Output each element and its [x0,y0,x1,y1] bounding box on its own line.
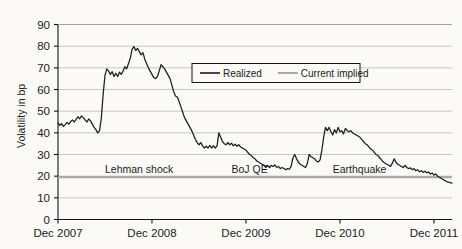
x-tick-label-1: Dec 2008 [127,227,176,239]
y-tick-label-10: 10 [37,192,50,204]
annotation-1: BoJ QE [232,163,268,175]
y-axis-title: Volatility in bp [15,84,27,148]
y-tick-label-90: 90 [37,19,50,31]
y-tick-label-40: 40 [37,127,50,139]
volatility-chart: 0102030405060708090 Dec 2007Dec 2008Dec … [0,0,462,249]
y-axis-title-text: Volatility in bp [15,84,27,148]
y-tick-label-70: 70 [37,62,50,74]
y-tick-label-50: 50 [37,105,50,117]
chart-svg: 0102030405060708090 Dec 2007Dec 2008Dec … [0,0,462,249]
y-tick-label-30: 30 [37,149,50,161]
chart-legend[interactable]: RealizedCurrent implied [192,64,369,83]
legend-label-1[interactable]: Current implied [301,68,369,79]
x-tick-label-2: Dec 2009 [221,227,270,239]
y-tick-label-80: 80 [37,40,50,52]
x-tick-label-4: Dec 2011 [410,227,458,239]
annotation-0: Lehman shock [105,163,174,175]
annotation-2: Earthquake [333,163,387,175]
x-tick-label-3: Dec 2010 [315,227,364,239]
chart-annotations: Lehman shockBoJ QEEarthquake [105,163,387,175]
x-tick-label-0: Dec 2007 [33,227,82,239]
y-tick-label-60: 60 [37,84,50,96]
y-tick-label-0: 0 [44,214,50,226]
y-tick-label-20: 20 [37,170,50,182]
legend-label-0[interactable]: Realized [223,68,262,79]
